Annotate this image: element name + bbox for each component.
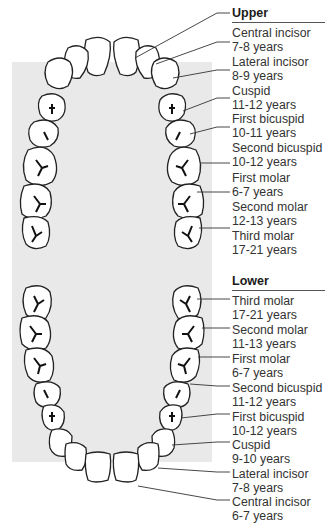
upper-right-second-molar-tooth: [20, 184, 51, 219]
lower-right-lateral-incisor-tooth: [65, 443, 87, 471]
lower-arch: [20, 286, 204, 482]
lower-heading-rule: [232, 290, 325, 291]
upper-label-lateral-incisor: Lateral incisor8-9 years: [232, 55, 309, 83]
lower-right-first-bicuspid-tooth: [42, 405, 64, 431]
lower-label-first-bicuspid: First bicuspid10-12 years: [232, 410, 304, 438]
lower-left-lateral-incisor-tooth: [138, 443, 160, 471]
lower-right-central-incisor-tooth: [85, 452, 110, 482]
lower-heading: Lower: [232, 274, 269, 288]
occlusal-grooves: [30, 104, 194, 422]
lower-label-third-molar: Third molar17-21 years: [232, 294, 297, 322]
upper-arch: [20, 37, 203, 248]
upper-heading-rule: [232, 22, 325, 23]
upper-label-first-molar: First molar6-7 years: [232, 171, 290, 199]
upper-label-cuspid: Cuspid11-12 years: [232, 84, 296, 112]
upper-left-third-molar-tooth: [174, 217, 201, 249]
upper-label-third-molar: Third molar17-21 years: [232, 229, 297, 257]
lower-label-first-molar: First molar6-7 years: [232, 352, 290, 380]
leader-lines: [135, 13, 230, 500]
upper-right-second-bicuspid-tooth: [29, 120, 59, 147]
upper-right-cuspid-tooth: [45, 58, 73, 89]
upper-label-second-bicuspid: Second bicuspid10-12 years: [232, 141, 322, 169]
upper-label-second-molar: Second molar12-13 years: [232, 200, 308, 228]
upper-left-cuspid-tooth: [151, 58, 179, 89]
lower-label-second-molar: Second molar11-13 years: [232, 323, 308, 351]
upper-left-second-molar-tooth: [173, 184, 204, 219]
upper-heading: Upper: [232, 6, 268, 20]
lower-left-central-incisor-tooth: [113, 452, 138, 482]
upper-right-third-molar-tooth: [22, 217, 49, 249]
lower-left-first-bicuspid-tooth: [160, 405, 182, 431]
lower-label-lateral-incisor: Lateral incisor7-8 years: [232, 467, 309, 495]
lower-label-central-incisor: Central incisor6-7 years: [232, 495, 311, 523]
upper-label-first-bicuspid: First bicuspid10-11 years: [232, 112, 304, 140]
lower-label-second-bicuspid: Second bicuspid11-12 years: [232, 381, 322, 409]
lower-label-cuspid: Cuspid9-10 years: [232, 438, 290, 466]
upper-label-central-incisor: Central incisor7-8 years: [232, 26, 311, 54]
